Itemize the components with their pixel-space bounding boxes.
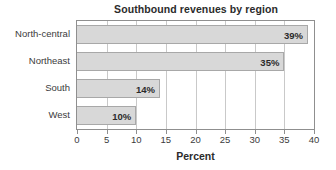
bar-chart-figure: Southbound revenues by region North-cent…: [0, 0, 336, 170]
y-axis-label-south: South: [0, 82, 70, 93]
x-tick-label: 30: [249, 134, 260, 145]
x-tick-label: 40: [309, 134, 320, 145]
y-axis-label-north-central: North-central: [0, 28, 70, 39]
bar-value-label: 39%: [284, 29, 303, 40]
bar[interactable]: 14%: [77, 79, 160, 98]
x-tick-label: 10: [131, 134, 142, 145]
bar[interactable]: 10%: [77, 106, 136, 125]
bar-row: 39%: [77, 21, 314, 48]
x-tick-label: 35: [279, 134, 290, 145]
x-axis-title: Percent: [76, 150, 315, 162]
x-axis: 0510152025303540: [76, 130, 315, 148]
bar-value-label: 10%: [112, 110, 131, 121]
x-tick-label: 5: [104, 134, 109, 145]
y-axis-category-labels: North-centralNortheastSouthWest: [0, 20, 70, 130]
y-axis-label-northeast: Northeast: [0, 55, 70, 66]
x-tick-label: 0: [74, 134, 79, 145]
x-tick-label: 15: [161, 134, 172, 145]
x-tick-label: 20: [190, 134, 201, 145]
x-tick-label: 25: [220, 134, 231, 145]
bar-row: 14%: [77, 75, 314, 102]
y-axis-label-west: West: [0, 109, 70, 120]
plot-area: 39%35%14%10%: [76, 20, 315, 130]
bar[interactable]: 39%: [77, 25, 308, 44]
bar[interactable]: 35%: [77, 52, 284, 71]
bar-value-label: 14%: [136, 83, 155, 94]
bar-row: 10%: [77, 102, 314, 129]
chart-title: Southbound revenues by region: [76, 3, 316, 15]
bar-row: 35%: [77, 48, 314, 75]
bar-value-label: 35%: [260, 56, 279, 67]
